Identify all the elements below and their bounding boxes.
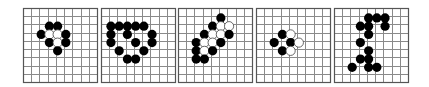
board-grid (256, 8, 331, 83)
black-stone (123, 22, 132, 31)
board-grid (178, 8, 253, 83)
black-stone (278, 46, 287, 55)
black-stone (200, 54, 209, 63)
black-stone (192, 54, 201, 63)
black-stone (106, 22, 115, 31)
black-stone (45, 38, 54, 47)
white-stone (53, 30, 62, 39)
white-stone (208, 30, 217, 39)
black-stone (286, 38, 295, 47)
black-stone (61, 38, 70, 47)
black-stone (270, 38, 279, 47)
white-stone (224, 22, 233, 31)
board-grid (101, 8, 176, 83)
black-stone (45, 22, 54, 31)
black-stone (192, 38, 201, 47)
black-stone (380, 22, 389, 31)
white-stone (208, 38, 217, 47)
black-stone (61, 30, 70, 39)
black-stone (53, 46, 62, 55)
black-stone (372, 13, 381, 22)
black-stone (372, 63, 381, 72)
go-board-3 (178, 8, 253, 83)
black-stone (139, 46, 148, 55)
black-stone (53, 22, 62, 31)
black-stone (364, 30, 373, 39)
black-stone (348, 63, 357, 72)
black-stone (131, 54, 140, 63)
black-stone (208, 22, 217, 31)
go-board-1 (23, 8, 98, 83)
black-stone (224, 30, 233, 39)
white-stone (200, 38, 209, 47)
black-stone (106, 30, 115, 39)
black-stone (216, 38, 225, 47)
black-stone (364, 13, 373, 22)
black-stone (208, 46, 217, 55)
white-stone (286, 46, 295, 55)
go-board-2 (101, 8, 176, 83)
black-stone (200, 30, 209, 39)
board-grid (23, 8, 98, 83)
black-stone (147, 38, 156, 47)
black-stone (364, 22, 373, 31)
black-stone (364, 46, 373, 55)
black-stone (356, 54, 365, 63)
black-stone (278, 30, 287, 39)
black-stone (380, 13, 389, 22)
white-stone (216, 30, 225, 39)
black-stone (123, 54, 132, 63)
black-stone (131, 22, 140, 31)
black-stone (356, 22, 365, 31)
white-stone (45, 30, 54, 39)
black-stone (216, 13, 225, 22)
white-stone (294, 38, 303, 47)
black-stone (106, 38, 115, 47)
black-stone (364, 54, 373, 63)
black-stone (147, 30, 156, 39)
white-stone (216, 22, 225, 31)
white-stone (200, 46, 209, 55)
black-stone (356, 38, 365, 47)
black-stone (364, 63, 373, 72)
black-stone (115, 46, 124, 55)
black-stone (131, 38, 140, 47)
black-stone (139, 22, 148, 31)
white-stone (53, 38, 62, 47)
black-stone (123, 30, 132, 39)
black-stone (37, 30, 46, 39)
board-grid (334, 8, 409, 83)
go-board-5 (334, 8, 409, 83)
go-board-4 (256, 8, 331, 83)
black-stone (192, 46, 201, 55)
black-stone (115, 22, 124, 31)
white-stone (286, 30, 295, 39)
go-diagram-figure: Five Go board diagrams showing stone pat… (0, 0, 429, 87)
